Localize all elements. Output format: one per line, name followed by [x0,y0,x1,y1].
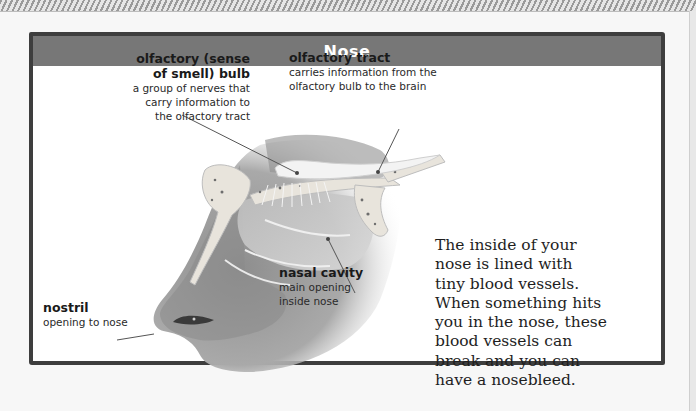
fact-line: have a nosebleed. [435,371,645,390]
cavity-leader-dot [326,237,330,241]
olfactory-bulb-title-2: of smell) bulb [78,66,250,81]
label-nostril: nostril opening to nose [43,300,193,329]
label-olfactory-tract: olfactory tract carries information from… [289,50,509,93]
tract-leader-dot [376,170,380,174]
fact-line: When something hits [435,294,645,313]
fact-line: blood vessels can [435,332,645,351]
fact-line: The inside of your [435,236,645,255]
olfactory-tract-desc-1: carries information from the [289,65,509,79]
nasal-cavity-desc-1: main opening [279,280,419,294]
nosebleed-fact-paragraph: The inside of your nose is lined with ti… [435,236,645,390]
label-nasal-cavity: nasal cavity main opening inside nose [279,265,419,308]
label-olfactory-bulb: olfactory (sense of smell) bulb a group … [78,51,250,123]
olfactory-tract-desc-2: olfactory bulb to the brain [289,79,509,93]
fact-line: break and you can [435,352,645,371]
nasal-cavity-desc-2: inside nose [279,294,419,308]
fact-line: you in the nose, these [435,313,645,332]
bulb-leader-dot [295,171,299,175]
nostril-title: nostril [43,300,193,315]
fact-line: tiny blood vessels. [435,275,645,294]
olfactory-tract-title: olfactory tract [289,50,509,65]
nostril-leader-line [117,334,154,340]
olfactory-bulb-desc-2: carry information to [78,95,250,109]
olfactory-bulb-desc-1: a group of nerves that [78,81,250,95]
nasal-cavity-title: nasal cavity [279,265,419,280]
olfactory-bulb-title-1: olfactory (sense [78,51,250,66]
nostril-desc: opening to nose [43,315,193,329]
fact-line: nose is lined with [435,255,645,274]
olfactory-bulb-desc-3: the olfactory tract [78,109,250,123]
